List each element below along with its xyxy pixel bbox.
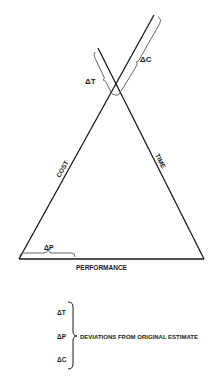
time-label: TIME [154, 152, 168, 170]
delta-c-label: ΔC [140, 55, 152, 64]
delta-p-label: ΔP [44, 244, 54, 251]
legend-delta-p: ΔP [57, 333, 67, 340]
legend-brace [68, 302, 77, 369]
legend-delta-t: ΔT [57, 309, 66, 316]
cost-side-line [19, 15, 154, 259]
delta-t-label: ΔT [85, 77, 96, 86]
triangle-diagram: ΔC ΔT ΔP COST TIME PERFORMANCE ΔT ΔP ΔC … [0, 0, 224, 381]
legend-delta-c: ΔC [57, 356, 67, 363]
cost-label: COST [55, 159, 70, 178]
time-side-line [98, 48, 204, 259]
performance-label: PERFORMANCE [76, 264, 128, 271]
delta-t-brace [94, 52, 115, 95]
legend-description: DEVIATIONS FROM ORIGINAL ESTIMATE [80, 334, 198, 340]
legend: ΔT ΔP ΔC DEVIATIONS FROM ORIGINAL ESTIMA… [57, 302, 198, 369]
delta-c-brace [115, 17, 161, 95]
delta-p-brace [20, 250, 75, 257]
